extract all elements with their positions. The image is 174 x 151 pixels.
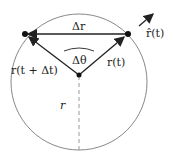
r-hat-arrow [139, 14, 153, 26]
circular-motion-diagram: Δr r̂(t) Δθ r(t) r(t + Δt) r [0, 0, 174, 151]
radius-label: r [60, 99, 66, 112]
left-point [22, 31, 28, 37]
center-point [77, 73, 82, 78]
delta-theta-label: Δθ [72, 54, 87, 67]
r-t-label: r(t) [107, 56, 125, 69]
delta-r-label: Δr [72, 20, 86, 33]
r-t-dt-label: r(t + Δt) [11, 64, 58, 77]
r-hat-label: r̂(t) [146, 27, 164, 40]
delta-theta-arc [64, 48, 94, 51]
right-point [125, 31, 131, 37]
